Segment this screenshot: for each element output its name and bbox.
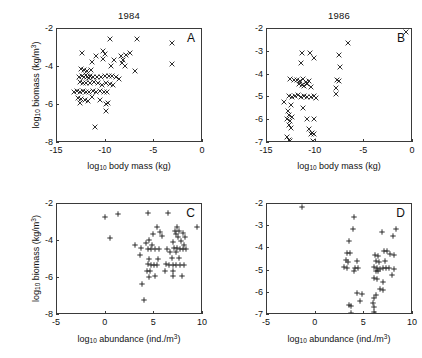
data-point <box>179 273 185 279</box>
data-layer-b <box>267 29 411 141</box>
data-point <box>90 88 96 94</box>
data-point <box>180 246 186 252</box>
data-point <box>311 93 317 99</box>
data-point <box>86 89 92 95</box>
data-point <box>103 80 109 86</box>
data-point <box>355 265 361 271</box>
data-point <box>287 138 293 141</box>
data-point <box>352 265 358 271</box>
y-axis-label-c: log10 biomass (kg/m3) <box>30 203 41 314</box>
y-tick-mark <box>56 277 59 278</box>
data-point <box>99 82 105 88</box>
data-point <box>120 57 126 63</box>
y-tick-mark <box>266 142 269 143</box>
data-point <box>344 250 350 256</box>
x-axis-label-c: log10 abundance (ind./m3) <box>56 333 202 344</box>
data-point <box>86 75 92 81</box>
y-tick-label: -8 <box>45 309 53 319</box>
data-point <box>144 268 150 274</box>
panel-title-b: 1986 <box>266 10 412 21</box>
x-tick-mark <box>56 139 57 142</box>
x-tick-mark <box>315 139 316 142</box>
data-point <box>75 95 81 101</box>
x-tick-mark <box>363 311 364 314</box>
data-point <box>390 233 396 239</box>
data-point <box>345 40 351 46</box>
y-tick-label: -6 <box>255 287 263 297</box>
data-point <box>97 88 103 94</box>
data-point <box>170 268 176 274</box>
data-point <box>92 124 98 130</box>
data-point <box>101 89 107 95</box>
data-point <box>374 265 380 271</box>
data-point <box>374 276 380 282</box>
data-point <box>286 137 292 141</box>
data-point <box>85 98 91 104</box>
data-point <box>169 40 175 46</box>
data-point <box>89 94 95 100</box>
data-point <box>87 73 93 79</box>
data-point <box>102 214 108 220</box>
data-point <box>170 273 176 279</box>
y-tick-mark <box>56 142 59 143</box>
data-point <box>301 93 307 99</box>
data-point <box>95 80 101 86</box>
data-point <box>103 101 109 107</box>
y-tick-label: -3 <box>255 220 263 230</box>
y-tick-mark <box>56 28 59 29</box>
data-point <box>303 79 309 85</box>
x-tick-label: -10 <box>98 145 111 155</box>
y-tick-mark <box>266 270 269 271</box>
y-tick-label: -3 <box>255 46 263 56</box>
data-point <box>90 74 96 80</box>
data-point <box>174 245 180 251</box>
data-point <box>371 309 377 313</box>
y-tick-label: -6 <box>45 99 53 109</box>
x-tick-mark <box>105 311 106 314</box>
data-point <box>286 122 292 128</box>
data-point <box>106 73 112 79</box>
x-tick-mark <box>56 311 57 314</box>
data-point <box>83 89 89 95</box>
y-axis-label-a: log10 biomass (kg/m3) <box>30 28 41 142</box>
data-point <box>296 81 302 87</box>
data-point <box>391 252 397 258</box>
data-point <box>183 246 189 252</box>
y-tick-label: -2 <box>45 23 53 33</box>
data-point <box>104 89 110 95</box>
x-axis-label-d: log10 abundance (ind./m3) <box>266 333 412 344</box>
data-point <box>77 89 83 95</box>
y-tick-label: -5 <box>255 91 263 101</box>
data-point <box>100 56 106 62</box>
data-point <box>80 80 86 86</box>
data-point <box>344 265 350 271</box>
x-tick-mark <box>202 139 203 142</box>
data-point <box>162 268 168 274</box>
data-point <box>300 76 306 82</box>
plot-area-d: D <box>266 203 412 314</box>
data-point <box>181 242 187 248</box>
data-point <box>287 76 293 82</box>
data-point <box>343 257 349 263</box>
data-point <box>89 59 95 65</box>
data-point <box>74 88 80 94</box>
data-point <box>286 112 292 118</box>
data-point <box>148 262 154 268</box>
x-tick-label: 10 <box>407 317 417 327</box>
data-point <box>84 68 90 74</box>
data-point <box>300 105 306 111</box>
data-point <box>299 204 305 210</box>
x-tick-label: 5 <box>361 317 366 327</box>
y-tick-mark <box>56 104 59 105</box>
data-point <box>164 246 170 252</box>
data-point <box>102 51 108 57</box>
x-tick-label: 0 <box>102 317 107 327</box>
data-point <box>380 279 386 285</box>
data-point <box>84 74 90 80</box>
panel-letter-a: A <box>187 31 195 45</box>
x-tick-mark <box>412 139 413 142</box>
y-tick-label: -2 <box>255 23 263 33</box>
data-point <box>152 246 158 252</box>
data-point <box>146 256 152 262</box>
data-point <box>288 125 294 131</box>
